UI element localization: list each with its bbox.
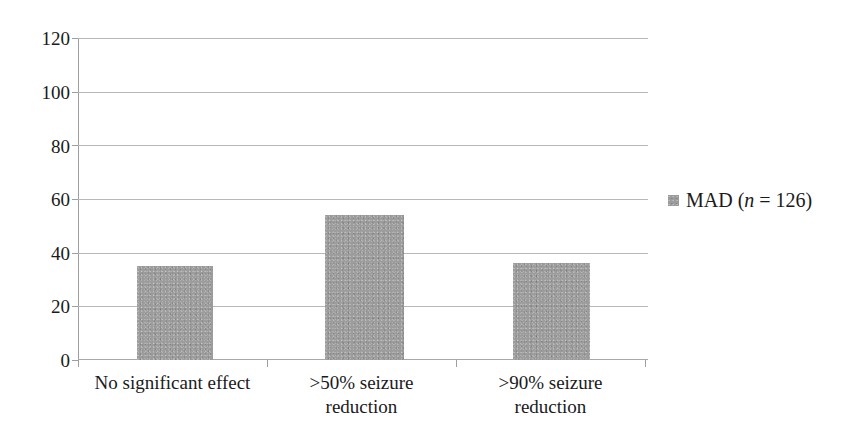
bar-50-percent-seizure-reduction	[325, 215, 404, 360]
x-axis-label-line: reduction	[267, 395, 456, 419]
x-axis-tick-mark-1	[267, 360, 268, 367]
y-axis-tick-label-20: 20	[24, 297, 70, 316]
x-axis-tick-mark-2	[456, 360, 457, 367]
x-axis-label-50-percent-seizure-reduction: >50% seizure reduction	[267, 371, 456, 419]
x-axis-tick-mark-start	[78, 360, 79, 367]
y-axis-tick-label-40: 40	[24, 244, 70, 263]
gridline-80	[78, 145, 648, 146]
bar-90-percent-seizure-reduction	[513, 263, 590, 360]
bar-chart: 120 100 80 60 40 20 0 No significant eff…	[0, 0, 863, 445]
x-axis-label-line: >90% seizure	[456, 371, 645, 395]
gridline-120	[78, 38, 648, 39]
x-axis-label-line: >50% seizure	[267, 371, 456, 395]
legend-label-prefix: MAD (	[686, 189, 744, 211]
gridline-100	[78, 92, 648, 93]
legend-label-suffix: = 126)	[754, 189, 812, 211]
chart-legend: MAD (n = 126)	[668, 190, 812, 210]
y-axis-tick-label-120: 120	[24, 29, 70, 48]
legend-swatch-icon	[668, 195, 679, 206]
y-axis-tick-label-80: 80	[24, 137, 70, 156]
y-axis-tick-label-100: 100	[24, 83, 70, 102]
x-axis-label-line: No significant effect	[78, 371, 267, 395]
x-axis-label-90-percent-seizure-reduction: >90% seizure reduction	[456, 371, 645, 419]
x-axis-label-no-significant-effect: No significant effect	[78, 371, 267, 395]
x-axis-tick-mark-end	[645, 360, 646, 367]
y-axis-tick-label-0: 0	[24, 351, 70, 370]
y-axis-tick-label-60: 60	[24, 190, 70, 209]
bar-no-significant-effect	[137, 266, 213, 360]
legend-label-italic-n: n	[744, 189, 754, 211]
gridline-60	[78, 199, 648, 200]
x-axis-label-line: reduction	[456, 395, 645, 419]
legend-entry-label: MAD (n = 126)	[686, 190, 812, 210]
plot-area	[78, 38, 648, 360]
